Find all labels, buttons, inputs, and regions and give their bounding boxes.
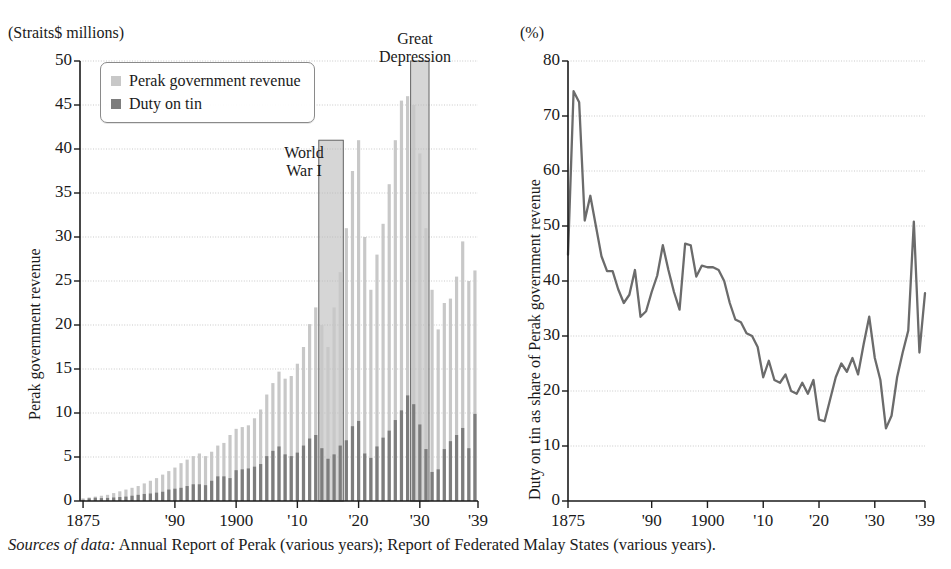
left-y-tick-45: 45 (30, 94, 72, 114)
annotation-wwi-line2: War I (268, 162, 340, 180)
right-y-tick-80: 80 (518, 50, 560, 70)
right-unit-label: (%) (520, 24, 544, 42)
right-y-tick-10: 10 (518, 435, 560, 455)
left-y-tick-40: 40 (30, 138, 72, 158)
legend-label-revenue: Perak government revenue (129, 72, 300, 90)
right-y-tick-70: 70 (518, 105, 560, 125)
source-note-lead: Sources of data: (8, 535, 116, 554)
right-y-tick-50: 50 (518, 215, 560, 235)
left-x-tick-'39: '39 (448, 511, 508, 531)
left-x-tick-'30: '30 (390, 511, 450, 531)
left-unit-label: (Straits$ millions) (8, 24, 124, 42)
right-x-tick-'20: '20 (789, 511, 849, 531)
right-x-tick-'10: '10 (733, 511, 793, 531)
left-y-tick-30: 30 (30, 226, 72, 246)
right-y-tick-40: 40 (518, 270, 560, 290)
left-y-tick-5: 5 (30, 446, 72, 466)
left-x-tick-'10: '10 (267, 511, 327, 531)
left-x-tick-'90: '90 (145, 511, 205, 531)
annotation-great-depression: Great Depression (360, 30, 470, 66)
annotation-gd-line2: Depression (360, 48, 470, 66)
right-x-tick-1900: 1900 (677, 511, 737, 531)
source-note: Sources of data: Annual Report of Perak … (8, 535, 716, 555)
right-y-tick-20: 20 (518, 380, 560, 400)
right-x-tick-'39: '39 (895, 511, 951, 531)
left-x-tick-1900: 1900 (206, 511, 266, 531)
legend[interactable]: Perak government revenue Duty on tin (100, 62, 315, 123)
legend-item-duty[interactable]: Duty on tin (111, 92, 300, 115)
left-y-tick-35: 35 (30, 182, 72, 202)
right-y-tick-0: 0 (518, 490, 560, 510)
right-y-tick-60: 60 (518, 160, 560, 180)
legend-swatch-duty (111, 99, 121, 109)
legend-swatch-revenue (111, 76, 121, 86)
legend-item-revenue[interactable]: Perak government revenue (111, 69, 300, 92)
figure-perak-revenue: (Straits$ millions) Perak government rev… (0, 0, 951, 569)
left-y-tick-25: 25 (30, 270, 72, 290)
annotation-wwi-line1: World (268, 144, 340, 162)
left-y-tick-50: 50 (30, 50, 72, 70)
left-y-tick-20: 20 (30, 314, 72, 334)
right-chart-panel: (%) Duty on tin as share of Perak govern… (500, 0, 951, 525)
annotation-gd-line1: Great (360, 30, 470, 48)
left-x-tick-1875: 1875 (53, 511, 113, 531)
left-y-tick-10: 10 (30, 402, 72, 422)
annotation-world-war-one: World War I (268, 144, 340, 180)
right-x-tick-1875: 1875 (538, 511, 598, 531)
source-note-rest: Annual Report of Perak (various years); … (116, 535, 716, 554)
left-x-tick-'20: '20 (329, 511, 389, 531)
left-y-tick-15: 15 (30, 358, 72, 378)
right-x-tick-'90: '90 (622, 511, 682, 531)
left-y-tick-0: 0 (30, 490, 72, 510)
right-chart-plot (500, 0, 951, 525)
right-y-tick-30: 30 (518, 325, 560, 345)
legend-label-duty: Duty on tin (129, 95, 202, 113)
